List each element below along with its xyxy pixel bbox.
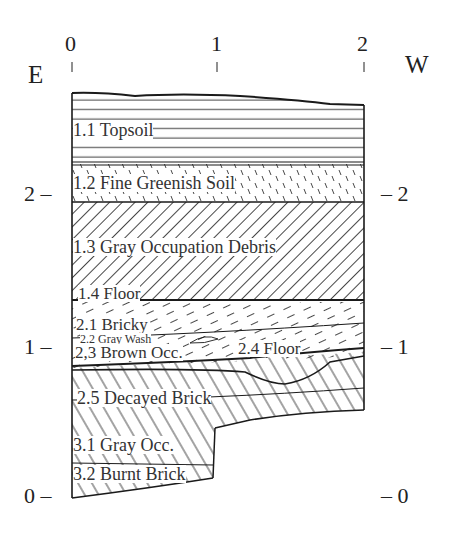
top-tick-marks [72,62,364,72]
label-1-4-floor: 1.4 Floor [78,285,140,302]
distance-tick-0: 0 [65,33,76,55]
depth-left-tick-2: 2 – [24,183,52,205]
depth-left-tick-1: 1 – [24,336,52,358]
label-2-1-bricky: 2.1 Bricky [76,316,148,333]
depth-right-tick-2: – 2 [381,183,409,205]
label-2-5-decayed-brick: 2.5 Decayed Brick [77,389,211,407]
distance-tick-2: 2 [357,33,368,55]
label-2-4-floor: 2.4 Floor [238,340,300,357]
east-label: E [28,62,43,87]
label-3-1-gray-occ: 3.1 Gray Occ. [73,436,174,454]
depth-left-tick-0: 0 – [24,485,52,507]
label-3-2-burnt-brick: 3.2 Burnt Brick [73,465,186,483]
distance-tick-1: 1 [211,33,222,55]
label-2-3-brown-occ: 2,3 Brown Occ. [75,344,183,361]
label-1-3-gray-occupation-debris: 1.3 Gray Occupation Debris [73,238,276,256]
label-1-2-fine-greenish-soil: 1.2 Fine Greenish Soil [73,174,235,192]
west-label: W [405,52,429,77]
section-drawing [0,0,451,544]
label-1-1-topsoil: 1.1 Topsoil [73,121,153,139]
depth-right-tick-0: – 0 [381,485,409,507]
stratigraphic-section-diagram: E W 0 1 2 2 – 1 – 0 – – 2 – 1 – 0 1.1 To… [0,0,451,544]
depth-right-tick-1: – 1 [381,336,409,358]
